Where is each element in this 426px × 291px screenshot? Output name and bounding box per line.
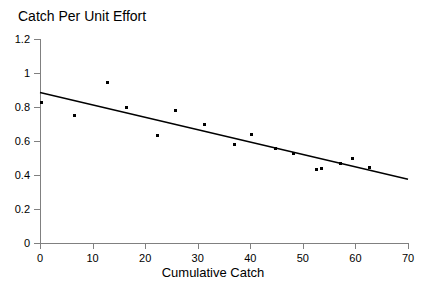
x-tick-mark [303, 243, 304, 249]
data-point [125, 106, 128, 109]
x-tick-label: 30 [183, 253, 213, 264]
y-tick-label: 1.2 [0, 34, 30, 45]
x-tick-label: 40 [235, 253, 265, 264]
data-point [351, 157, 354, 160]
y-tick-label: 0.6 [0, 136, 30, 147]
plot-area [40, 39, 408, 243]
data-point [156, 134, 159, 137]
y-tick-label: 1 [0, 68, 30, 79]
x-tick-label: 20 [130, 253, 160, 264]
x-tick-mark [145, 243, 146, 249]
x-tick-label: 70 [393, 253, 423, 264]
x-tick-mark [40, 243, 41, 249]
x-axis-line [40, 243, 409, 244]
y-tick-label: 0 [0, 238, 30, 249]
x-tick-label: 0 [25, 253, 55, 264]
chart-figure: Catch Per Unit Effort 00.20.40.60.811.2 … [0, 0, 426, 291]
x-axis-label: Cumulative Catch [0, 265, 426, 280]
data-point [339, 162, 342, 165]
y-tick-label: 0.2 [0, 204, 30, 215]
data-point [40, 101, 43, 104]
x-tick-mark [355, 243, 356, 249]
data-point [292, 152, 295, 155]
data-point [73, 114, 76, 117]
data-point [320, 167, 323, 170]
x-tick-mark [93, 243, 94, 249]
data-point [315, 168, 318, 171]
y-tick-label: 0.8 [0, 102, 30, 113]
x-tick-label: 10 [78, 253, 108, 264]
data-point [233, 143, 236, 146]
x-tick-mark [250, 243, 251, 249]
data-point [274, 147, 277, 150]
data-point [106, 81, 109, 84]
x-tick-mark [408, 243, 409, 249]
data-point [203, 123, 206, 126]
page-title: Catch Per Unit Effort [18, 8, 146, 24]
data-point [368, 166, 371, 169]
x-tick-label: 60 [340, 253, 370, 264]
data-point [250, 133, 253, 136]
data-point [174, 109, 177, 112]
x-tick-label: 50 [288, 253, 318, 264]
y-tick-label: 0.4 [0, 170, 30, 181]
x-tick-mark [198, 243, 199, 249]
